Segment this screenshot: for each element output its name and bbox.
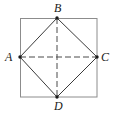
vertex-label-d: D <box>54 100 63 112</box>
vertex-label-a: A <box>5 51 12 63</box>
outer-square <box>21 19 98 98</box>
vertex-label-b: B <box>54 2 61 14</box>
geometry-figure: A B C D <box>0 0 113 116</box>
vertex-dot-b <box>55 16 58 19</box>
vertex-dot-a <box>18 55 21 58</box>
vertex-label-c: C <box>101 51 109 63</box>
vertex-dot-c <box>95 55 98 58</box>
